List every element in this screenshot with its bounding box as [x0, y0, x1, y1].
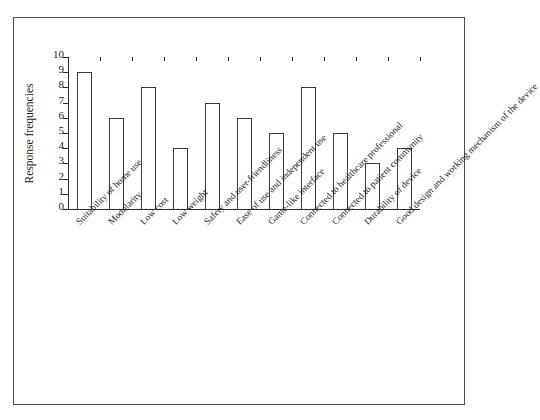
- y-tick-label: 2: [44, 171, 64, 182]
- y-tick-label: 3: [44, 155, 64, 166]
- y-tick-label: 10: [44, 49, 64, 60]
- bar[interactable]: [77, 72, 92, 209]
- x-tick-mark: [100, 57, 101, 61]
- y-tick-label: 4: [44, 140, 64, 151]
- x-tick-mark: [388, 57, 389, 61]
- y-tick: 2: [68, 179, 69, 180]
- y-tick-label: 0: [44, 201, 64, 212]
- y-tick-label: 6: [44, 110, 64, 121]
- y-tick: 4: [68, 148, 69, 149]
- y-tick: 3: [68, 163, 69, 164]
- y-tick-label: 9: [44, 64, 64, 75]
- y-tick: 9: [68, 72, 69, 73]
- x-tick-mark: [196, 57, 197, 61]
- y-tick: 0: [68, 209, 69, 210]
- bar[interactable]: [141, 87, 156, 209]
- y-tick: 5: [68, 133, 69, 134]
- x-tick-mark: [164, 57, 165, 61]
- x-tick-mark: [228, 57, 229, 61]
- y-tick-label: 5: [44, 125, 64, 136]
- x-tick-mark: [292, 57, 293, 61]
- y-tick-label: 1: [44, 186, 64, 197]
- x-tick-mark: [260, 57, 261, 61]
- x-tick-mark: [324, 57, 325, 61]
- y-tick: 8: [68, 87, 69, 88]
- bar[interactable]: [173, 148, 188, 209]
- x-tick-mark: [420, 57, 421, 61]
- y-axis-title: Response frequencies: [22, 57, 36, 210]
- x-tick-mark: [68, 57, 69, 61]
- y-tick: 7: [68, 103, 69, 104]
- y-tick: 1: [68, 194, 69, 195]
- y-tick: 6: [68, 118, 69, 119]
- y-tick-label: 7: [44, 95, 64, 106]
- y-tick-label: 8: [44, 79, 64, 90]
- x-tick-mark: [132, 57, 133, 61]
- x-tick-mark: [356, 57, 357, 61]
